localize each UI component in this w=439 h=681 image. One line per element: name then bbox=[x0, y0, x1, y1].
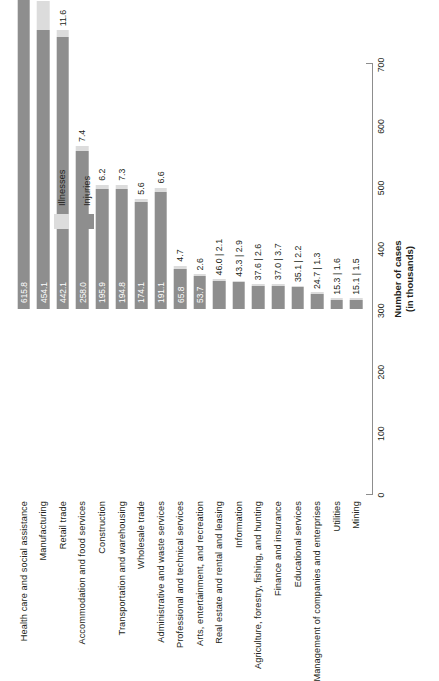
axis-tick-label: 600 bbox=[376, 119, 386, 134]
stacked-bar bbox=[233, 281, 246, 309]
bar-value-illnesses: 7.3 bbox=[117, 169, 127, 181]
chart-row: Real estate and rental and leasing46.0 |… bbox=[210, 65, 230, 495]
bar-value-illnesses: 5.6 bbox=[136, 182, 146, 194]
bar-value-illnesses: 6.6 bbox=[156, 171, 166, 183]
chart-row: Agriculture, forestry, fishing, and hunt… bbox=[249, 65, 269, 495]
bar-segment-injuries bbox=[193, 276, 206, 309]
axis-tick-label: 200 bbox=[376, 365, 386, 380]
chart-row: Construction195.96.2 bbox=[92, 65, 112, 495]
category-label: Mining bbox=[351, 501, 361, 529]
stacked-bar: 191.1 bbox=[154, 188, 167, 309]
axis-title-line2: (in thousands) bbox=[404, 63, 416, 495]
stacked-bar: 615.8 bbox=[17, 0, 30, 309]
legend-label-injuries: Injuries bbox=[81, 176, 92, 206]
category-label: Utilities bbox=[332, 501, 342, 532]
plot-area: Health care and social assistance615.838… bbox=[14, 65, 366, 495]
bar-value-pair: 46.0 | 2.1 bbox=[214, 239, 224, 276]
stacked-bar bbox=[311, 292, 324, 309]
category-label: Management of companies and enterprises bbox=[312, 501, 322, 681]
axis-title-line1: Number of cases bbox=[392, 63, 404, 495]
category-label: Finance and insurance bbox=[273, 501, 283, 596]
chart-row: Administrative and waste services191.16.… bbox=[151, 65, 171, 495]
chart-row: Utilities15.3 | 1.6 bbox=[327, 65, 347, 495]
bar-segment-injuries bbox=[213, 281, 226, 309]
stacked-bar bbox=[213, 279, 226, 309]
value-axis-right-cap bbox=[366, 63, 373, 64]
bar-segment-illnesses bbox=[193, 274, 206, 276]
bar-segment-injuries bbox=[330, 300, 343, 309]
chart-row: Information43.3 | 2.9 bbox=[229, 65, 249, 495]
bar-segment-illnesses bbox=[233, 281, 246, 283]
axis-title: Number of cases (in thousands) bbox=[392, 63, 415, 495]
category-label: Arts, entertainment, and recreation bbox=[195, 501, 205, 646]
value-axis-line bbox=[372, 63, 373, 495]
category-label: Educational services bbox=[293, 501, 303, 587]
category-label: Health care and social assistance bbox=[19, 501, 29, 641]
axis-tick-label: 0 bbox=[376, 493, 386, 498]
bar-value-pair: 37.0 | 3.7 bbox=[273, 243, 283, 280]
axis-tick-label: 700 bbox=[376, 58, 386, 73]
legend-swatch-illnesses-icon bbox=[54, 214, 69, 229]
category-label: Real estate and rental and leasing bbox=[214, 501, 224, 644]
bar-segment-injuries bbox=[291, 287, 304, 309]
bar-segment-illnesses bbox=[330, 298, 343, 300]
bar-value-pair: 35.1 | 2.2 bbox=[293, 246, 303, 283]
stacked-bar: 174.1 bbox=[135, 199, 148, 309]
category-label: Retail trade bbox=[58, 501, 68, 549]
chart-row: Transportation and warehousing194.87.3 bbox=[112, 65, 132, 495]
bar-segment-injuries bbox=[154, 192, 167, 309]
chart-row: Finance and insurance37.0 | 3.7 bbox=[268, 65, 288, 495]
bar-segment-illnesses bbox=[311, 292, 324, 294]
stacked-bar: 454.1 bbox=[37, 1, 50, 309]
stacked-bar bbox=[350, 298, 363, 309]
chart-row: Accommodation and food services258.07.4 bbox=[73, 65, 93, 495]
bar-segment-illnesses bbox=[213, 279, 226, 281]
bar-value-illnesses: 7.4 bbox=[77, 130, 87, 142]
category-label: Professional and technical services bbox=[175, 501, 185, 648]
bar-segment-injuries bbox=[311, 294, 324, 309]
category-label: Administrative and waste services bbox=[156, 501, 166, 643]
bar-segment-illnesses bbox=[350, 298, 363, 300]
stacked-bar bbox=[252, 284, 265, 309]
bar-segment-injuries bbox=[115, 189, 128, 309]
category-label: Information bbox=[234, 501, 244, 548]
stacked-bar bbox=[291, 286, 304, 309]
bar-segment-illnesses bbox=[37, 1, 50, 30]
axis-tick-label: 400 bbox=[376, 242, 386, 257]
stacked-bar-chart: Health care and social assistance615.838… bbox=[0, 0, 439, 681]
category-label: Transportation and warehousing bbox=[117, 501, 127, 635]
bar-segment-illnesses bbox=[115, 185, 128, 189]
bar-segment-illnesses bbox=[154, 188, 167, 192]
bar-segment-injuries bbox=[17, 0, 30, 309]
stacked-bar bbox=[272, 284, 285, 309]
chart-row: Educational services35.1 | 2.2 bbox=[288, 65, 308, 495]
axis-tick-label: 300 bbox=[376, 303, 386, 318]
bar-segment-injuries bbox=[252, 286, 265, 309]
legend-label-illnesses: Illnesses bbox=[56, 170, 67, 206]
bar-segment-injuries bbox=[135, 202, 148, 309]
bar-value-pair: 24.7 | 1.3 bbox=[312, 253, 322, 290]
bar-segment-injuries bbox=[350, 300, 363, 309]
bar-value-illnesses: 2.6 bbox=[195, 258, 205, 270]
value-axis-left-cap bbox=[366, 494, 373, 495]
bar-segment-injuries bbox=[174, 269, 187, 309]
legend-item-injuries: Injuries bbox=[79, 170, 94, 229]
category-label: Wholesale trade bbox=[136, 501, 146, 569]
category-label: Accommodation and food services bbox=[77, 501, 87, 645]
legend-item-illnesses: Illnesses bbox=[54, 170, 69, 229]
bar-segment-illnesses bbox=[252, 284, 265, 286]
bar-value-pair: 43.3 | 2.9 bbox=[234, 240, 244, 277]
stacked-bar: 53.7 bbox=[193, 274, 206, 309]
axis-tick-label: 100 bbox=[376, 426, 386, 441]
axis-tick-label: 500 bbox=[376, 181, 386, 196]
bar-value-pair: 15.3 | 1.6 bbox=[332, 258, 342, 295]
bar-value-illnesses: 4.7 bbox=[175, 249, 185, 261]
chart-row: Manufacturing454.147.7 bbox=[34, 65, 54, 495]
bar-segment-injuries bbox=[37, 30, 50, 309]
chart-row: Health care and social assistance615.838… bbox=[14, 65, 34, 495]
chart-row: Wholesale trade174.15.6 bbox=[131, 65, 151, 495]
bar-segment-illnesses bbox=[57, 30, 70, 37]
rotated-page-canvas: Health care and social assistance615.838… bbox=[0, 0, 439, 681]
category-label: Construction bbox=[97, 501, 107, 554]
chart-legend: Illnesses Injuries bbox=[54, 170, 104, 229]
